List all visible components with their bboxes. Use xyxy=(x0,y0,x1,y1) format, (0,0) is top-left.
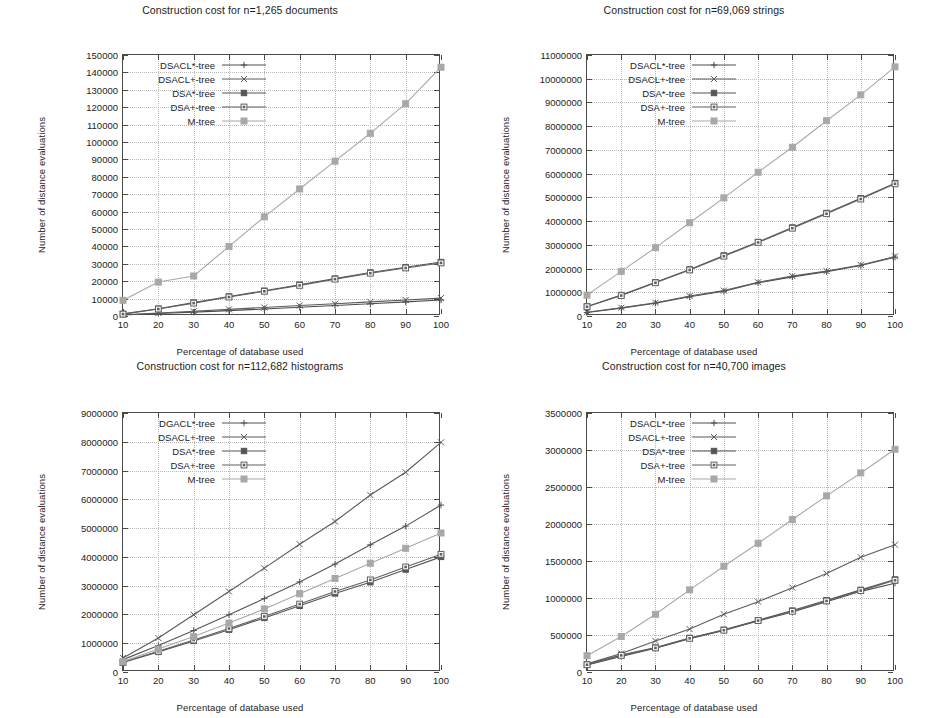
x-tick-label: 20 xyxy=(153,319,164,330)
y-tick-label: 6000000 xyxy=(81,494,118,505)
x-tick-mark xyxy=(895,665,896,670)
x-tick-label: 50 xyxy=(719,319,730,330)
legend-item: DSA+-tree xyxy=(14,100,266,114)
y-tick-label: 50000 xyxy=(92,224,118,235)
chart-panel-images: Construction cost for n=40,700 imagesNum… xyxy=(468,360,920,712)
y-tick-label: 90000 xyxy=(92,154,118,165)
x-tick-mark xyxy=(895,309,896,314)
y-tick-label: 40000 xyxy=(92,241,118,252)
legend-key xyxy=(692,73,736,85)
x-axis-label: Percentage of database used xyxy=(468,702,920,713)
x-tick-mark xyxy=(441,55,442,60)
legend-item-label: DSA*-tree xyxy=(642,88,685,99)
y-tick-mark xyxy=(434,316,439,317)
x-tick-label: 70 xyxy=(330,675,341,686)
y-tick-label: 100000 xyxy=(86,137,118,148)
legend-key xyxy=(222,473,266,485)
y-tick-mark xyxy=(434,672,439,673)
legend-key xyxy=(692,101,736,113)
legend-item: DSACL+-tree xyxy=(468,72,736,86)
legend-item-label: DGACL*-tree xyxy=(159,418,215,429)
x-tick-label: 70 xyxy=(330,319,341,330)
series-line xyxy=(123,505,441,660)
y-tick-label: 2000000 xyxy=(545,519,582,530)
series-line xyxy=(587,545,895,664)
legend-item-label: M-tree xyxy=(658,116,685,127)
y-tick-label: 5000000 xyxy=(81,523,118,534)
y-tick-mark xyxy=(888,316,893,317)
legend-item-label: M-tree xyxy=(188,116,215,127)
legend-item: DSA+-tree xyxy=(468,458,736,472)
legend-item-label: DSA*-tree xyxy=(172,446,215,457)
y-tick-label: 3000000 xyxy=(81,580,118,591)
x-tick-label: 100 xyxy=(433,675,449,686)
x-tick-label: 10 xyxy=(118,319,129,330)
legend-item: M-tree xyxy=(468,114,736,128)
legend-item: DSACL+-tree xyxy=(14,72,266,86)
y-tick-label: 30000 xyxy=(92,258,118,269)
x-tick-label: 40 xyxy=(224,675,235,686)
legend-item: DSACL*-tree xyxy=(14,58,266,72)
x-tick-label: 100 xyxy=(887,319,903,330)
legend-item: DSACL+-tree xyxy=(14,430,266,444)
x-tick-label: 70 xyxy=(787,319,798,330)
y-tick-mark xyxy=(587,316,592,317)
legend-item-label: DSA+-tree xyxy=(170,102,215,113)
chart-title: Construction cost for n=112,682 histogra… xyxy=(14,360,466,372)
figure-sheet: Construction cost for n=1,265 documentsN… xyxy=(0,0,927,718)
x-tick-label: 80 xyxy=(365,675,376,686)
chart-panel-documents: Construction cost for n=1,265 documentsN… xyxy=(14,4,466,356)
chart-legend: DSACL*-treeDSACL+-treeDSA*-treeDSA+-tree… xyxy=(468,58,736,128)
legend-item-label: DSA*-tree xyxy=(642,446,685,457)
legend-item-label: DSACL*-tree xyxy=(160,60,215,71)
x-tick-label: 90 xyxy=(855,675,866,686)
series-line xyxy=(123,533,441,662)
x-tick-mark xyxy=(895,55,896,60)
x-tick-label: 30 xyxy=(188,675,199,686)
legend-key xyxy=(692,115,736,127)
x-tick-label: 100 xyxy=(887,675,903,686)
legend-item-label: DSACL+-tree xyxy=(628,432,685,443)
y-tick-label: 10000 xyxy=(92,293,118,304)
y-tick-label: 80000 xyxy=(92,171,118,182)
legend-item: DSACL*-tree xyxy=(468,416,736,430)
y-tick-label: 6000000 xyxy=(545,168,582,179)
y-tick-label: 7000000 xyxy=(545,144,582,155)
legend-item-label: DSA+-tree xyxy=(640,460,685,471)
legend-item: M-tree xyxy=(468,472,736,486)
y-tick-label: 1500000 xyxy=(545,556,582,567)
y-tick-mark xyxy=(123,672,128,673)
x-tick-mark xyxy=(441,665,442,670)
y-tick-label: 2000000 xyxy=(545,263,582,274)
series-line xyxy=(587,184,895,307)
legend-item: DSA*-tree xyxy=(14,86,266,100)
x-tick-label: 80 xyxy=(821,675,832,686)
x-tick-label: 40 xyxy=(684,319,695,330)
legend-key xyxy=(222,445,266,457)
legend-key xyxy=(222,417,266,429)
legend-item: M-tree xyxy=(14,472,266,486)
x-tick-label: 50 xyxy=(259,675,270,686)
legend-item: DSACL+-tree xyxy=(468,430,736,444)
legend-item: DSACL*-tree xyxy=(468,58,736,72)
x-tick-label: 50 xyxy=(259,319,270,330)
legend-key xyxy=(692,417,736,429)
legend-item: DSA+-tree xyxy=(14,458,266,472)
legend-key xyxy=(222,115,266,127)
legend-item-label: M-tree xyxy=(658,474,685,485)
x-tick-mark xyxy=(895,413,896,418)
x-tick-label: 70 xyxy=(787,675,798,686)
x-tick-label: 20 xyxy=(616,319,627,330)
chart-panel-histograms: Construction cost for n=112,682 histogra… xyxy=(14,360,466,712)
x-tick-label: 90 xyxy=(855,319,866,330)
series-line xyxy=(587,580,895,665)
y-tick-mark xyxy=(587,672,592,673)
y-tick-label: 20000 xyxy=(92,276,118,287)
legend-item: DGACL*-tree xyxy=(14,416,266,430)
legend-item: DSA*-tree xyxy=(468,86,736,100)
x-tick-label: 80 xyxy=(821,319,832,330)
x-tick-label: 30 xyxy=(650,319,661,330)
x-tick-label: 60 xyxy=(294,319,305,330)
legend-key xyxy=(692,431,736,443)
chart-title: Construction cost for n=69,069 strings xyxy=(468,4,920,16)
